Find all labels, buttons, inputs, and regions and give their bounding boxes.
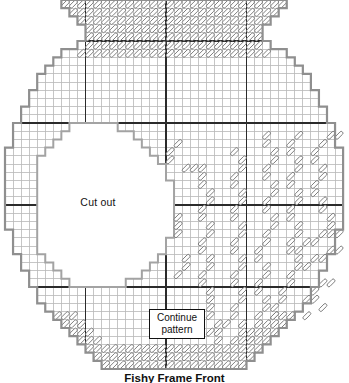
figure-caption: Fishy Frame Front xyxy=(0,372,349,383)
continue-pattern-line1: Continue xyxy=(157,312,197,325)
cutout-label: Cut out xyxy=(70,196,126,208)
continue-pattern-label: Continue pattern xyxy=(149,309,205,339)
pattern-chart: Cut out Continue pattern Fishy Frame Fro… xyxy=(0,0,349,383)
continue-pattern-line2: pattern xyxy=(161,324,192,337)
